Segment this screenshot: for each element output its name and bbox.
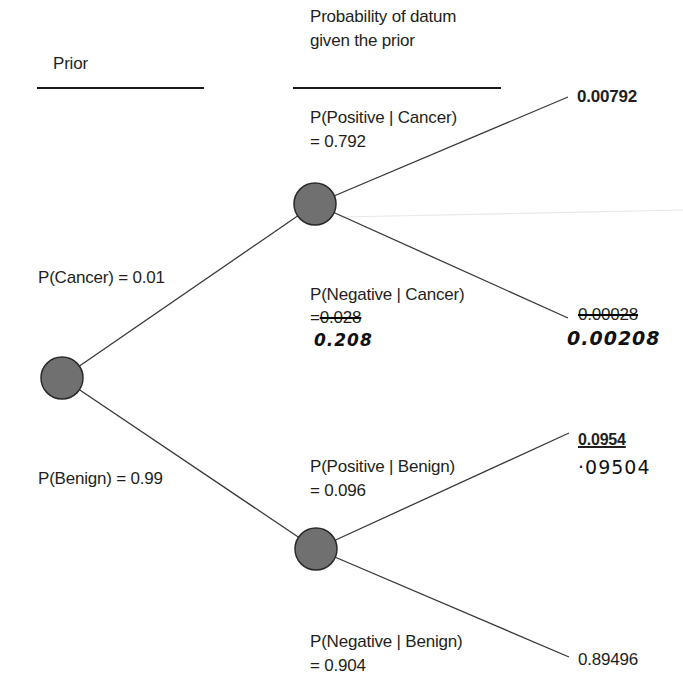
cond-neg-cancer-handwritten-value: 0.208 bbox=[314, 328, 373, 352]
scan-artifact-line bbox=[340, 210, 683, 217]
cond-pos-cancer-line2: = 0.792 bbox=[310, 130, 366, 154]
prior-cancer-label: P(Cancer) = 0.01 bbox=[38, 266, 165, 290]
cond-neg-benign-line2: = 0.904 bbox=[310, 654, 366, 678]
benign-node bbox=[295, 528, 337, 570]
outcome-pos-benign-struck: 0.0954 bbox=[578, 428, 626, 452]
outcome-neg-benign: 0.89496 bbox=[578, 648, 638, 672]
outcome-neg-cancer-struck: 0.00028 bbox=[578, 303, 638, 327]
cancer-node bbox=[294, 183, 336, 225]
cond-neg-cancer-eq: = bbox=[310, 308, 320, 327]
edge-root-cancer bbox=[62, 204, 315, 378]
prior-benign-label: P(Benign) = 0.99 bbox=[38, 467, 163, 491]
cond-pos-benign-line1: P(Positive | Benign) bbox=[310, 455, 455, 479]
prior-header: Prior bbox=[53, 52, 88, 76]
cond-neg-cancer-line2: =0.028 bbox=[310, 306, 361, 330]
cond-neg-cancer-line1: P(Negative | Cancer) bbox=[310, 283, 464, 307]
outcome-pos-benign-handwritten: ·09504 bbox=[578, 455, 650, 479]
cond-pos-cancer-line1: P(Positive | Cancer) bbox=[310, 106, 457, 130]
likelihood-header-line1: Probability of datum bbox=[310, 5, 456, 29]
likelihood-header-line2: given the prior bbox=[310, 29, 415, 53]
edge-root-benign bbox=[62, 378, 316, 549]
root-node bbox=[41, 357, 83, 399]
cond-neg-benign-line1: P(Negative | Benign) bbox=[310, 630, 463, 654]
cond-pos-benign-line2: = 0.096 bbox=[310, 479, 366, 503]
cond-neg-cancer-struck-value: 0.028 bbox=[320, 308, 362, 327]
outcome-pos-cancer: 0.00792 bbox=[577, 85, 637, 109]
outcome-neg-cancer-handwritten: 0.00208 bbox=[567, 326, 661, 350]
